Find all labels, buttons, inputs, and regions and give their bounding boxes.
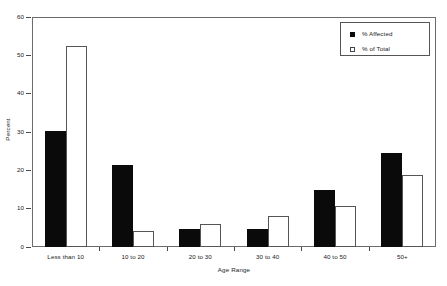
x-axis-category-label: 50+	[369, 253, 436, 260]
x-axis-category-label: 10 to 20	[99, 253, 166, 260]
y-axis-tick-mark	[26, 93, 31, 94]
bar	[402, 175, 423, 247]
x-axis-tick-mark	[234, 247, 235, 251]
x-axis-category-label: 20 to 30	[167, 253, 234, 260]
x-axis-title: Age Range	[32, 266, 436, 273]
hollow-square-icon	[350, 47, 355, 52]
bar	[381, 153, 402, 247]
y-axis-tick-label: 10	[0, 204, 24, 211]
bar	[179, 229, 200, 247]
legend-label: % of Total	[362, 45, 390, 52]
bar	[335, 206, 356, 247]
bar	[66, 46, 87, 247]
y-axis-tick-mark	[26, 247, 31, 248]
bar	[314, 190, 335, 247]
y-axis-tick-label: 30	[0, 128, 24, 135]
bar-chart: Percent 0102030405060 Less than 1010 to …	[0, 0, 447, 286]
y-axis-tick-label: 40	[0, 89, 24, 96]
x-axis-category-label: Less than 10	[32, 253, 99, 260]
x-axis-tick-mark	[99, 247, 100, 251]
bar	[112, 165, 133, 247]
legend-label: % Affected	[362, 30, 392, 37]
bar	[200, 224, 221, 247]
x-axis-tick-mark	[167, 247, 168, 251]
y-axis-tick-mark	[26, 170, 31, 171]
y-axis-tick-mark	[26, 55, 31, 56]
bar	[268, 216, 289, 247]
x-axis-category-label: 40 to 50	[301, 253, 368, 260]
chart-legend: % Affected% of Total	[340, 22, 430, 56]
y-axis-tick-mark	[26, 208, 31, 209]
x-axis-tick-mark	[369, 247, 370, 251]
y-axis-tick-mark	[26, 17, 31, 18]
filled-square-icon	[350, 32, 355, 37]
bar	[45, 131, 66, 247]
y-axis-tick-mark	[26, 132, 31, 133]
x-axis-tick-mark	[301, 247, 302, 251]
x-axis-category-label: 30 to 40	[234, 253, 301, 260]
bar	[133, 231, 154, 247]
y-axis-tick-label: 60	[0, 13, 24, 20]
y-axis-tick-label: 20	[0, 166, 24, 173]
y-axis-tick-label: 50	[0, 51, 24, 58]
bar	[247, 229, 268, 247]
y-axis-tick-label: 0	[0, 243, 24, 250]
